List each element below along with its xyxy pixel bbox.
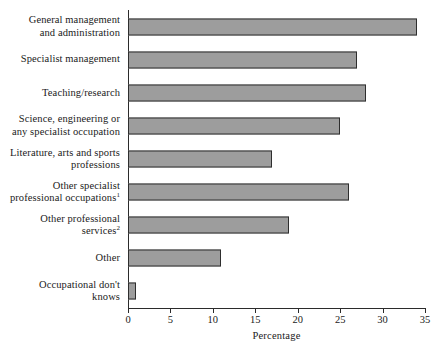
- category-label: Specialist management: [0, 43, 124, 76]
- bar-chart: General managementand administrationSpec…: [0, 0, 436, 350]
- bar-row: [128, 209, 425, 242]
- category-axis-labels: General managementand administrationSpec…: [0, 10, 124, 308]
- x-axis-title: Percentage: [128, 330, 425, 341]
- x-tick: [298, 308, 299, 313]
- x-tick: [340, 308, 341, 313]
- footnote-marker: 2: [116, 224, 120, 232]
- bar: [128, 250, 221, 267]
- x-tick-label: 25: [320, 314, 360, 325]
- bar-row: [128, 142, 425, 175]
- x-tick-label: 20: [278, 314, 318, 325]
- category-label: Science, engineering orany specialist oc…: [0, 109, 124, 142]
- x-tick: [383, 308, 384, 313]
- x-tick: [255, 308, 256, 313]
- bar: [128, 283, 136, 300]
- bar: [128, 217, 289, 234]
- bar: [128, 84, 366, 101]
- category-label: Occupational don'tknows: [0, 275, 124, 308]
- category-label: Other: [0, 242, 124, 275]
- bar-row: [128, 76, 425, 109]
- bar-rows: [128, 10, 425, 308]
- bar-row: [128, 109, 425, 142]
- x-tick-label: 0: [108, 314, 148, 325]
- bar-row: [128, 275, 425, 308]
- bar: [128, 150, 272, 167]
- footnote-marker: 1: [116, 191, 120, 199]
- bar-row: [128, 242, 425, 275]
- x-tick-label: 35: [405, 314, 436, 325]
- bar-row: [128, 43, 425, 76]
- bar-row: [128, 176, 425, 209]
- category-label: Other specialistprofessional occupations…: [0, 176, 124, 209]
- bar: [128, 184, 349, 201]
- bar: [128, 117, 340, 134]
- x-tick-label: 15: [235, 314, 275, 325]
- bar-row: [128, 10, 425, 43]
- bar: [128, 51, 357, 68]
- x-tick: [213, 308, 214, 313]
- x-tick: [170, 308, 171, 313]
- x-tick-label: 5: [150, 314, 190, 325]
- x-tick: [425, 308, 426, 313]
- x-axis-line: [128, 308, 425, 309]
- category-label: Teaching/research: [0, 76, 124, 109]
- category-label: Literature, arts and sportsprofessions: [0, 142, 124, 175]
- bar: [128, 18, 417, 35]
- x-tick-label: 30: [363, 314, 403, 325]
- category-label: General managementand administration: [0, 10, 124, 43]
- x-tick-label: 10: [193, 314, 233, 325]
- plot-area: [128, 10, 425, 308]
- x-tick: [128, 308, 129, 313]
- category-label: Other professionalservices2: [0, 209, 124, 242]
